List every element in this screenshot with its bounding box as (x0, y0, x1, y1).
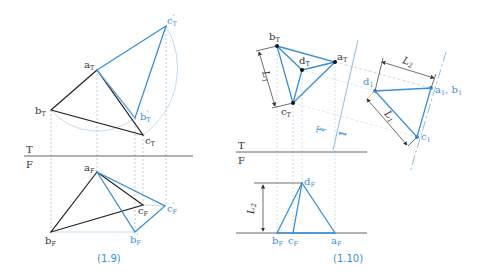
aux-fold-label-1: 1 (336, 130, 348, 139)
label-d-1: d1 (363, 76, 374, 89)
caption-1-9: (1.9) (97, 253, 121, 264)
label-b-f: bF (45, 235, 56, 248)
label-b-t: bT (269, 31, 280, 44)
aux-fold-label-t: T (314, 125, 326, 134)
label-b-prime-t: b'T (140, 109, 151, 124)
label-c-prime-t: c'T (167, 13, 177, 28)
fold-label-t: T (26, 144, 33, 155)
aux-reference-line (410, 52, 446, 172)
rotation-arcs (51, 26, 178, 135)
triangle-top-rotated (97, 26, 166, 118)
label-c-f: cF (138, 205, 149, 218)
dim-label-l2-front: L2 (245, 203, 258, 215)
label-c-f: cF (288, 235, 299, 248)
label-a1-b1: a1, b1 (435, 84, 462, 97)
tetrahedron-top (277, 46, 335, 103)
dim-label-l1-top: L1 (258, 68, 274, 83)
triangle-front-rotated (97, 172, 165, 232)
label-a-t: aT (84, 59, 95, 72)
caption-1-10: (1.10) (333, 253, 363, 264)
fold-label-f: F (26, 159, 33, 170)
figure-1-10: T 1 T F (236, 31, 462, 264)
label-d-t: dT (299, 55, 310, 68)
label-a-t: aT (337, 51, 348, 64)
label-b-prime-f: b'F (130, 232, 141, 247)
projection-lines-vertical (277, 46, 335, 233)
descriptive-geometry-diagram: T F aT bT cT b'T c'T aF bF cF b'F c'F (1… (0, 0, 480, 280)
dim-label-l2-aux: L2 (400, 54, 415, 70)
tetrahedron-front (277, 183, 335, 233)
label-a-f: aF (84, 162, 95, 175)
label-c-1: c1 (421, 131, 431, 144)
label-b-t: bT (35, 105, 46, 118)
fold-label-t: T (238, 140, 245, 151)
label-a-f: aF (331, 235, 342, 248)
label-c-prime-f: c'F (167, 201, 177, 216)
projection-lines (51, 26, 166, 232)
label-c-t: cT (145, 135, 156, 148)
label-b-f: bF (272, 235, 283, 248)
label-d-f: dF (304, 176, 315, 189)
fold-label-f: F (238, 155, 245, 166)
dim-label-l1-aux: L1 (380, 107, 398, 124)
label-c-t: cT (281, 106, 292, 119)
figure-1-9: T F aT bT cT b'T c'T aF bF cF b'F c'F (1… (24, 13, 193, 264)
